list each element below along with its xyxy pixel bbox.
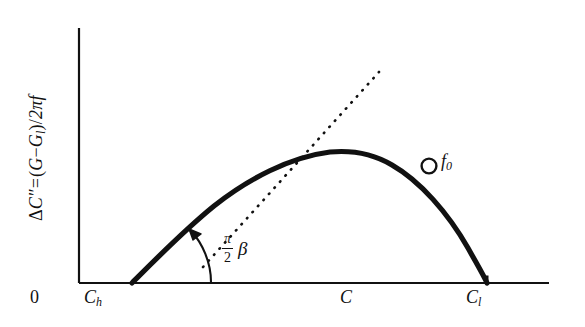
f0-open-circle-marker[interactable] bbox=[422, 159, 437, 174]
fraction-bar bbox=[222, 248, 233, 249]
f0-label: f0 bbox=[441, 152, 452, 172]
x-tick-label-c-low: Cl bbox=[466, 288, 481, 308]
beta-symbol: β bbox=[238, 239, 247, 258]
f0-label-sub: 0 bbox=[446, 159, 452, 173]
x-tick-c-high-base: C bbox=[84, 287, 96, 307]
x-tick-c-low-base: C bbox=[466, 287, 478, 307]
x-tick-c-mid-base: C bbox=[340, 287, 352, 307]
angle-arc-arrow bbox=[192, 232, 211, 282]
y-axis-g-sub: G bbox=[26, 134, 46, 147]
x-tick-label-origin: 0 bbox=[30, 288, 39, 306]
fraction-numerator-pi: π bbox=[222, 232, 233, 247]
y-axis-minus: − bbox=[26, 147, 46, 157]
y-axis-delta: Δ bbox=[26, 209, 46, 221]
y-axis-open-paren: ( bbox=[26, 171, 46, 177]
x-tick-c-low-sub: l bbox=[478, 295, 481, 309]
y-axis-two-pi-f: 2πf bbox=[26, 95, 46, 119]
angle-arrowhead-icon bbox=[189, 229, 201, 240]
y-axis-slash: / bbox=[26, 119, 46, 124]
angle-label: π 2 β bbox=[222, 232, 247, 265]
y-axis-label: ΔC″=(G−Gl)/2πf bbox=[27, 33, 47, 283]
y-axis-c-double-prime: C″ bbox=[26, 189, 46, 209]
y-axis-g: G bbox=[26, 158, 46, 171]
x-tick-label-c-high: Ch bbox=[84, 288, 102, 308]
y-axis-g-sub-index: l bbox=[34, 130, 48, 134]
fraction-denominator-two: 2 bbox=[222, 250, 233, 265]
plot-svg bbox=[0, 0, 585, 327]
x-tick-label-c-mid: C bbox=[340, 288, 352, 306]
pi-over-two-fraction: π 2 bbox=[222, 232, 233, 265]
y-axis-equals: = bbox=[26, 177, 46, 189]
x-tick-c-high-sub: h bbox=[96, 295, 102, 309]
figure-canvas: ΔC″=(G−Gl)/2πf 0 Ch C Cl f0 π 2 β bbox=[0, 0, 585, 327]
y-axis-close-paren: ) bbox=[26, 124, 46, 130]
